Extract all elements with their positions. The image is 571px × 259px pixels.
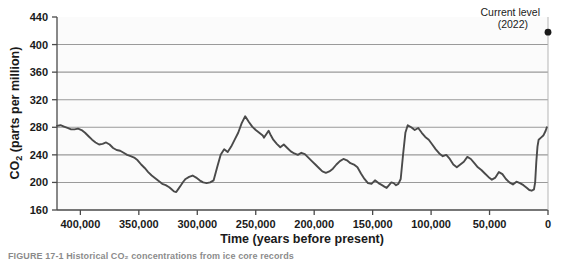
x-axis-tick-label: 350,000 <box>119 218 159 230</box>
x-axis-tick-labels: 400,000350,000300,000250,000200,000150,0… <box>60 218 551 230</box>
y-axis-tick-label: 280 <box>30 121 48 133</box>
current-level-label-line2: (2022) <box>498 18 528 30</box>
plot-area-background <box>57 17 548 210</box>
x-axis-title: Time (years before present) <box>220 232 384 246</box>
y-axis-title-rest: (parts per million) <box>8 47 22 156</box>
y-axis-tick-label: 440 <box>30 11 48 23</box>
y-axis-title-main: CO <box>8 160 22 179</box>
y-axis-tick-label: 400 <box>30 39 48 51</box>
y-axis-tick-label: 240 <box>30 149 48 161</box>
y-axis-tick-label: 200 <box>30 176 48 188</box>
x-axis-tick-label: 150,000 <box>353 218 393 230</box>
x-axis-tick-label: 300,000 <box>177 218 217 230</box>
current-level-label-line1: Current level <box>480 6 540 18</box>
y-axis-tick-label: 160 <box>30 204 48 216</box>
x-axis-tick-label: 250,000 <box>236 218 276 230</box>
y-axis-tick-label: 320 <box>30 94 48 106</box>
y-axis-tick-label: 360 <box>30 66 48 78</box>
current-level-marker-dot <box>545 29 552 36</box>
figure-caption: FIGURE 17-1 Historical CO₂ concentration… <box>8 251 294 259</box>
x-axis-tick-label: 100,000 <box>411 218 451 230</box>
x-axis-tick-label: 50,000 <box>473 218 507 230</box>
x-axis-tick-label: 400,000 <box>60 218 100 230</box>
chart-canvas: 160200240280320360400440 400,000350,0003… <box>0 0 571 259</box>
x-axis-tick-label: 0 <box>545 218 551 230</box>
x-axis-tick-label: 200,000 <box>294 218 334 230</box>
co2-ice-core-chart: 160200240280320360400440 400,000350,0003… <box>0 0 571 259</box>
